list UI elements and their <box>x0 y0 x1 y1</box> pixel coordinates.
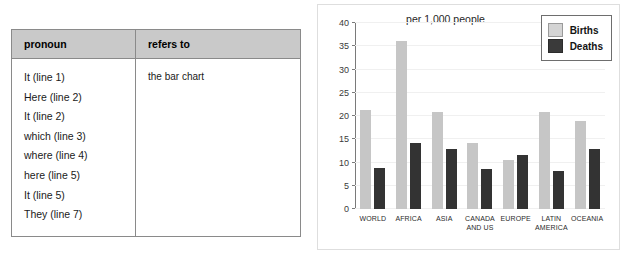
bar-deaths <box>481 169 492 209</box>
pronoun-item: here (line 5) <box>24 166 135 186</box>
refers-to-answer: the bar chart <box>136 59 300 82</box>
bar-births <box>432 112 443 209</box>
chart-legend: Births Deaths <box>541 15 612 61</box>
bar-group: WORLD <box>360 23 385 209</box>
legend-label-deaths: Deaths <box>570 41 603 52</box>
x-axis-category-label: AFRICA <box>395 214 421 223</box>
bar-deaths <box>446 149 457 209</box>
x-axis-category-label: LATIN AMERICA <box>535 214 568 232</box>
pronoun-item: where (line 4) <box>24 146 135 166</box>
bar-group: AFRICA <box>396 23 421 209</box>
bar-group: EUROPE <box>503 23 528 209</box>
pronoun-item: They (line 7) <box>24 205 135 225</box>
bar-births <box>396 41 407 209</box>
y-axis-tick-label: 0 <box>344 204 349 214</box>
legend-swatch-deaths-icon <box>548 39 563 53</box>
y-axis-tick-label: 15 <box>339 134 349 144</box>
bar-chart-panel: per 1,000 people Births Deaths 051015202… <box>317 4 620 250</box>
x-axis-category-label: WORLD <box>360 214 387 223</box>
pronoun-cell: It (line 1)Here (line 2)It (line 2)which… <box>12 59 136 237</box>
pronoun-item: Here (line 2) <box>24 88 135 108</box>
y-axis-tick-label: 35 <box>339 41 349 51</box>
legend-swatch-births-icon <box>548 23 563 37</box>
y-axis-tick-label: 30 <box>339 65 349 75</box>
legend-item-deaths: Deaths <box>548 39 603 53</box>
bar-group: ASIA <box>432 23 457 209</box>
pronoun-table: pronoun refers to It (line 1)Here (line … <box>12 30 300 236</box>
bar-deaths <box>517 155 528 209</box>
pronoun-item: It (line 2) <box>24 107 135 127</box>
pronoun-reference-table-panel: pronoun refers to It (line 1)Here (line … <box>11 29 301 237</box>
bar-births <box>360 110 371 209</box>
y-axis-tick-label: 40 <box>339 18 349 28</box>
bar-deaths <box>374 168 385 209</box>
pronoun-item: It (line 1) <box>24 68 135 88</box>
bar-deaths <box>410 143 421 209</box>
bar-births <box>467 143 478 209</box>
y-axis-tick-label: 25 <box>339 88 349 98</box>
pronoun-item: which (line 3) <box>24 127 135 147</box>
pronoun-list: It (line 1)Here (line 2)It (line 2)which… <box>12 59 135 225</box>
bar-births <box>503 160 514 209</box>
legend-item-births: Births <box>548 23 603 37</box>
x-axis-category-label: EUROPE <box>501 214 531 223</box>
x-axis-category-label: CANADA AND US <box>465 214 495 232</box>
y-axis-tick-label: 20 <box>339 111 349 121</box>
column-header-refers-to: refers to <box>136 30 301 59</box>
refers-to-cell[interactable]: the bar chart <box>136 59 301 237</box>
table-body-row: It (line 1)Here (line 2)It (line 2)which… <box>12 59 300 237</box>
x-axis-category-label: OCEANIA <box>571 214 603 223</box>
pronoun-item: It (line 5) <box>24 186 135 206</box>
y-axis-tick-label: 10 <box>339 158 349 168</box>
legend-label-births: Births <box>570 25 599 36</box>
x-axis-category-label: ASIA <box>436 214 452 223</box>
y-axis-tick-label: 5 <box>344 181 349 191</box>
bar-births <box>539 112 550 209</box>
bar-births <box>575 121 586 209</box>
bar-group: CANADA AND US <box>467 23 492 209</box>
bar-deaths <box>589 149 600 209</box>
column-header-pronoun: pronoun <box>12 30 136 59</box>
bar-deaths <box>553 171 564 209</box>
table-header-row: pronoun refers to <box>12 30 300 59</box>
